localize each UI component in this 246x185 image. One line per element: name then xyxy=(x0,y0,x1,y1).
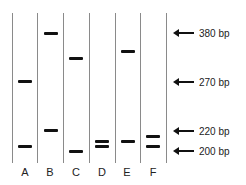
band-lane-c xyxy=(69,57,83,60)
marker-270: 270 bp xyxy=(176,76,230,88)
arrow-left-icon xyxy=(176,150,194,152)
band-lane-f xyxy=(146,135,160,138)
lane-divider xyxy=(166,13,167,163)
arrow-left-icon xyxy=(176,130,194,132)
lane-label-d: D xyxy=(92,166,112,178)
arrow-left-icon xyxy=(176,81,194,83)
band-lane-c xyxy=(69,150,83,153)
marker-label: 270 bp xyxy=(199,77,230,88)
lane-divider xyxy=(63,13,64,163)
lane-label-e: E xyxy=(117,166,137,178)
marker-label: 380 bp xyxy=(199,28,230,39)
band-lane-b xyxy=(44,129,58,132)
marker-label: 220 bp xyxy=(199,126,230,137)
marker-200: 200 bp xyxy=(176,145,230,157)
band-lane-b xyxy=(44,32,58,35)
band-lane-a xyxy=(18,80,32,83)
lane-label-b: B xyxy=(40,166,60,178)
lane-divider xyxy=(89,13,90,163)
lane-label-c: C xyxy=(66,166,86,178)
band-lane-e xyxy=(121,140,135,143)
lane-divider xyxy=(12,13,13,163)
marker-label: 200 bp xyxy=(199,146,230,157)
marker-380: 380 bp xyxy=(176,27,230,39)
band-lane-a xyxy=(18,145,32,148)
band-lane-f xyxy=(146,145,160,148)
band-lane-d xyxy=(95,145,109,148)
band-lane-e xyxy=(121,50,135,53)
lane-label-a: A xyxy=(15,166,35,178)
lane-divider xyxy=(37,13,38,163)
lane-divider xyxy=(140,13,141,163)
arrow-left-icon xyxy=(176,32,194,34)
marker-220: 220 bp xyxy=(176,125,230,137)
lane-divider xyxy=(115,13,116,163)
band-lane-d xyxy=(95,140,109,143)
lane-label-f: F xyxy=(143,166,163,178)
